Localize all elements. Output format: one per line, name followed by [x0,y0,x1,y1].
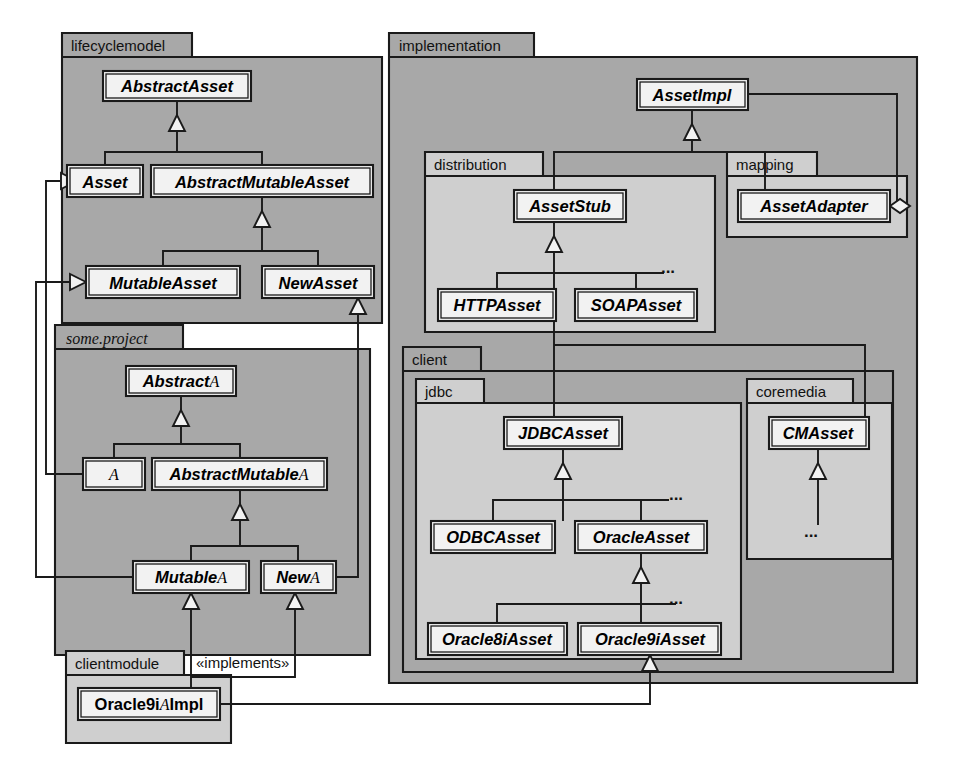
ellipsis-distribution: ... [661,258,675,277]
class-label: A [108,466,119,483]
ellipsis-jdbc-second: ... [669,589,683,608]
class-label: AbstractMutableA [168,465,308,483]
package-label: implementation [399,37,501,54]
diagram-canvas: lifecyclemodel implementation some.proje… [0,0,955,780]
class-label: Oracle9iAImpl [95,695,204,713]
class-HTTPAsset[interactable]: HTTPAsset [438,289,556,321]
class-label: AssetStub [528,197,611,215]
class-label: OracleAsset [593,528,691,546]
ellipsis-coremedia: ... [804,522,818,541]
class-Oracle9iAImpl[interactable]: Oracle9iAImpl [78,688,220,720]
package-label: jdbc [424,383,453,400]
uml-diagram: lifecyclemodel implementation some.proje… [0,0,955,780]
class-NewA[interactable]: NewA [261,561,336,593]
class-label: NewAsset [279,274,359,292]
class-label: MutableA [155,568,227,586]
package-label: coremedia [756,383,827,400]
class-Asset[interactable]: Asset [67,165,143,197]
class-OracleAsset[interactable]: OracleAsset [575,521,707,553]
class-label: SOAPAsset [591,296,683,314]
class-AbstractA[interactable]: AbstractA [126,366,236,396]
class-label: AssetAdapter [759,197,869,215]
class-label: CMAsset [783,424,855,442]
package-label: distribution [434,156,507,173]
class-NewAsset[interactable]: NewAsset [262,266,374,298]
class-ODBCAsset[interactable]: ODBCAsset [431,521,555,553]
class-label: AbstractA [142,372,220,390]
class-SOAPAsset[interactable]: SOAPAsset [575,289,697,321]
class-JDBCAsset[interactable]: JDBCAsset [504,417,622,449]
package-label: client [412,351,448,368]
class-AbstractMutableA[interactable]: AbstractMutableA [152,458,327,490]
package-label: lifecyclemodel [71,37,165,54]
class-label: MutableAsset [109,274,218,292]
class-Oracle9iAsset[interactable]: Oracle9iAsset [578,623,721,655]
class-label: Oracle9iAsset [595,630,707,648]
class-Oracle8iAsset[interactable]: Oracle8iAsset [428,623,567,655]
ellipsis-jdbc-first: ... [669,485,683,504]
package-label: clientmodule [75,655,159,672]
class-CMAsset[interactable]: CMAsset [769,417,869,449]
class-label: AbstractMutableAsset [174,173,351,191]
class-AssetImpl[interactable]: AssetImpl [637,79,748,110]
class-MutableAsset[interactable]: MutableAsset [86,266,240,298]
class-label: HTTPAsset [454,296,542,314]
package-label: some.project [66,330,148,348]
class-label: AssetImpl [652,86,732,104]
class-AbstractMutableAsset[interactable]: AbstractMutableAsset [151,165,373,197]
implements-stereotype-label: «implements» [196,654,289,671]
class-MutableA[interactable]: MutableA [133,561,249,593]
class-A[interactable]: A [83,458,145,490]
class-AbstractAsset[interactable]: AbstractAsset [103,71,251,101]
class-AssetStub[interactable]: AssetStub [514,190,626,222]
class-label: NewA [276,568,320,586]
class-label: AbstractAsset [120,77,234,95]
class-label: Oracle8iAsset [442,630,554,648]
class-label: ODBCAsset [446,528,541,546]
class-label: Asset [82,173,129,191]
class-label: JDBCAsset [518,424,609,442]
class-AssetAdapter[interactable]: AssetAdapter [738,190,890,222]
